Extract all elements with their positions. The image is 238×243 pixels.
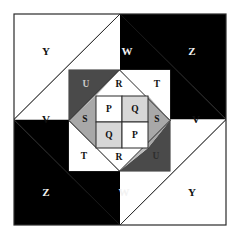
label-outer-v-right: V — [192, 113, 200, 125]
label-outer-w-bottom: W — [119, 186, 130, 198]
label-outer-y-tl: Y — [42, 45, 50, 57]
label-cell-p-br: P — [132, 130, 138, 140]
label-outer-z-tr: Z — [188, 45, 195, 57]
label-outer-y-br: Y — [188, 186, 196, 198]
label-mid-r-top: R — [116, 79, 123, 89]
label-outer-w-top: W — [122, 45, 133, 57]
label-outer-z-bl: Z — [42, 186, 49, 198]
label-mid-s-right: S — [154, 114, 159, 124]
label-cell-q-tr: Q — [131, 104, 138, 114]
label-mid-t-bl: T — [81, 151, 88, 161]
label-mid-t-tr: T — [154, 79, 161, 89]
geometric-figure: Y W Z V V Z W Y U T T U R S S R P Q Q P — [0, 0, 238, 243]
label-mid-u-tl: U — [83, 79, 90, 89]
label-mid-u-br: U — [153, 151, 160, 161]
label-cell-p-tl: P — [106, 104, 112, 114]
figure-canvas: Y W Z V V Z W Y U T T U R S S R P Q Q P — [0, 0, 238, 243]
label-mid-s-left: S — [82, 114, 87, 124]
label-mid-r-bottom: R — [116, 152, 123, 162]
label-cell-q-bl: Q — [105, 130, 112, 140]
label-outer-v-left: V — [42, 113, 50, 125]
